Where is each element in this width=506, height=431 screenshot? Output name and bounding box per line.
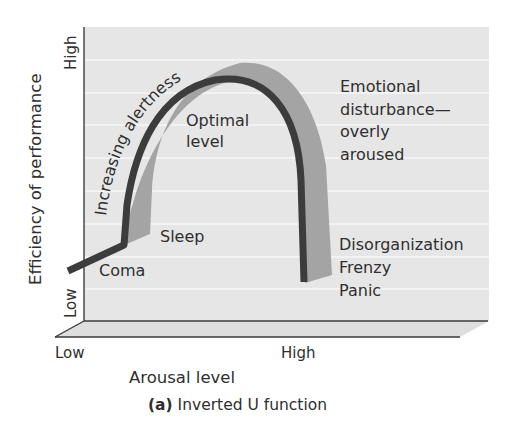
caption-letter: (a) [148, 396, 173, 414]
x-tick-high: High [281, 344, 315, 362]
x-axis-title: Arousal level [129, 368, 235, 387]
x-tick-low: Low [55, 344, 85, 362]
disorganization-label: Disorganization [339, 235, 464, 254]
panic-label: Panic [339, 281, 381, 300]
y-axis-title: Efficiency of performance [26, 73, 45, 285]
frenzy-label: Frenzy [339, 258, 391, 277]
caption-text: Inverted U function [178, 396, 327, 414]
optimal-label-line1: Optimal [186, 111, 249, 130]
emotional-label-line1: Emotional [340, 77, 420, 96]
emotional-label-line3: overly [340, 122, 390, 141]
inverted-u-diagram: Increasing alertness Optimal level Emoti… [0, 0, 506, 431]
emotional-label-line4: aroused [340, 145, 404, 164]
plot-floor [55, 321, 489, 337]
y-tick-low: Low [62, 288, 80, 318]
y-tick-high: High [62, 36, 80, 70]
figure-caption: (a) Inverted U function [148, 396, 327, 414]
coma-label: Coma [99, 261, 145, 280]
emotional-label-line2: disturbance— [340, 100, 451, 119]
optimal-label-line2: level [186, 132, 224, 151]
sleep-label: Sleep [160, 227, 204, 246]
